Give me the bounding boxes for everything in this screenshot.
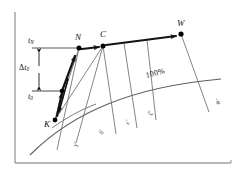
- axis-frame: [15, 12, 231, 163]
- diagonal-line-family: [57, 34, 209, 150]
- label-delta-t0: Δt0: [19, 64, 29, 72]
- diagram-vector-layer: [0, 0, 242, 181]
- point-marker-N: [77, 46, 82, 51]
- point-label-K: K: [44, 120, 50, 129]
- point-label-N: N: [75, 33, 81, 42]
- label-tn: tN: [28, 37, 34, 45]
- label-t0: t0: [28, 93, 33, 101]
- point-marker-mid: [60, 89, 65, 94]
- point-label-C: C: [100, 30, 106, 39]
- point-marker-C: [101, 44, 106, 49]
- point-label-W: W: [177, 19, 185, 28]
- figure-canvas: tN t0 Δt0 N C W K 100% γ′ δ′ ε′ ζ′ φ′: [0, 0, 242, 181]
- point-marker-K: [53, 118, 58, 123]
- point-marker-W: [178, 31, 183, 36]
- point-markers: [53, 31, 184, 122]
